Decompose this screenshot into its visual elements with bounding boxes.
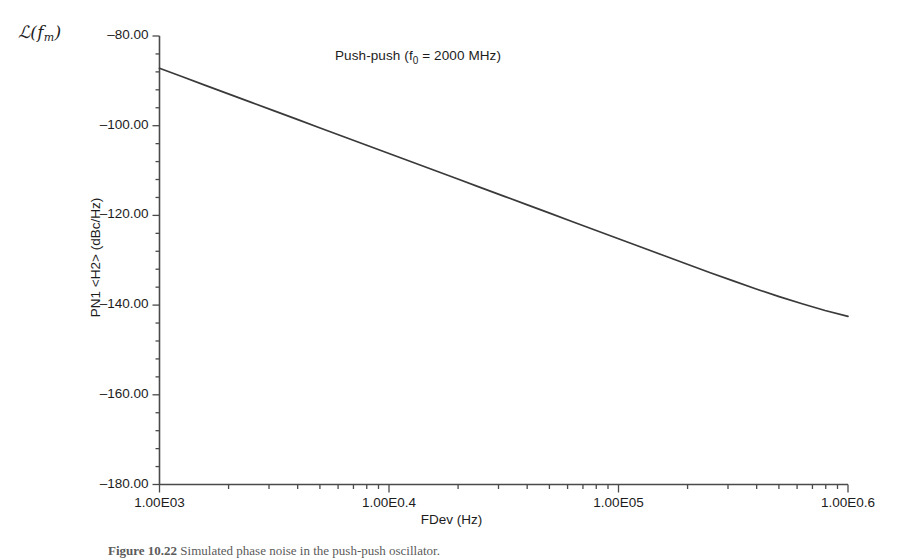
phase-noise-trace bbox=[160, 68, 849, 316]
y-tick-label: –120.00 bbox=[63, 206, 149, 221]
y-tick-label: –80.00 bbox=[63, 27, 149, 42]
figure-caption-text: Simulated phase noise in the push-push o… bbox=[180, 543, 440, 558]
x-tick-label: 1.00E05 bbox=[593, 495, 643, 510]
y-tick-label: –100.00 bbox=[63, 117, 149, 132]
y-tick-label: –140.00 bbox=[63, 296, 149, 311]
x-tick-label: 1.00E03 bbox=[134, 495, 184, 510]
x-axis-ticks bbox=[160, 485, 849, 493]
x-tick-label: 1.00E0.4 bbox=[362, 495, 416, 510]
phase-noise-figure: ℒ(fm) Push-push (f0 = 2000 MHz) PN1 <H2>… bbox=[0, 0, 903, 559]
y-tick-label: –160.00 bbox=[63, 386, 149, 401]
y-axis-ticks bbox=[153, 36, 160, 485]
y-tick-label: –180.00 bbox=[63, 476, 149, 491]
figure-caption-label: Figure 10.22 bbox=[108, 543, 177, 558]
axis-lines bbox=[159, 36, 848, 485]
x-tick-label: 1.00E0.6 bbox=[821, 495, 875, 510]
figure-caption: Figure 10.22 Simulated phase noise in th… bbox=[108, 543, 808, 559]
